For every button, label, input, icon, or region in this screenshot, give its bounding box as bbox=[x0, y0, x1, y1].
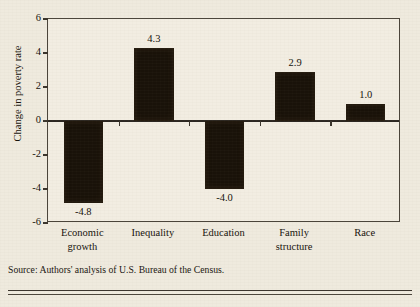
y-axis-tick bbox=[43, 86, 48, 87]
x-axis-tick bbox=[119, 121, 120, 126]
y-axis-tick bbox=[43, 18, 48, 19]
bar-value-label: 2.9 bbox=[265, 58, 325, 69]
bar-economic-growth bbox=[64, 121, 104, 203]
y-axis-tick-label: 6 bbox=[36, 13, 41, 24]
footer-rule-top bbox=[8, 290, 412, 291]
y-axis-title: Change in poverty rate bbox=[12, 14, 23, 174]
x-axis-tick bbox=[260, 121, 261, 126]
category-label-line: growth bbox=[37, 240, 127, 254]
x-axis-category-labels: EconomicgrowthInequalityEducationFamilys… bbox=[47, 226, 400, 262]
category-label-line: structure bbox=[249, 240, 339, 254]
bar-value-label: -4.8 bbox=[53, 207, 113, 218]
bar-family-structure bbox=[275, 72, 315, 121]
bar-value-label: -4.0 bbox=[195, 193, 255, 204]
y-axis-tick bbox=[43, 120, 48, 121]
y-axis-tick-label: 0 bbox=[36, 115, 41, 126]
y-axis-tick bbox=[43, 52, 48, 53]
y-axis-tick bbox=[43, 154, 48, 155]
y-axis-tick-label: -2 bbox=[32, 149, 41, 160]
y-axis-tick-label: 4 bbox=[36, 47, 41, 58]
x-axis-tick bbox=[330, 121, 331, 126]
y-axis-tick bbox=[43, 188, 48, 189]
y-axis-tick bbox=[43, 222, 48, 223]
footer-rule-bottom bbox=[8, 294, 412, 295]
figure-page: -4.84.3-4.02.91.0 6420-2-4-6 Change in p… bbox=[0, 0, 420, 307]
category-label-line: Race bbox=[320, 226, 410, 240]
x-axis-tick bbox=[189, 121, 190, 126]
chart-plot-frame: -4.84.3-4.02.91.0 bbox=[47, 18, 400, 222]
bar-value-label: 1.0 bbox=[336, 90, 396, 101]
source-note: Source: Authors' analysis of U.S. Bureau… bbox=[8, 264, 224, 276]
y-axis-tick-label: 2 bbox=[36, 81, 41, 92]
bar-value-label: 4.3 bbox=[124, 34, 184, 45]
x-axis-category-label: Race bbox=[320, 226, 410, 240]
chart-plot-area: -4.84.3-4.02.91.0 bbox=[48, 19, 399, 221]
bar-inequality bbox=[134, 48, 174, 121]
y-axis-tick-label: -4 bbox=[32, 183, 41, 194]
bar-education bbox=[205, 121, 245, 189]
bar-race bbox=[346, 104, 386, 121]
